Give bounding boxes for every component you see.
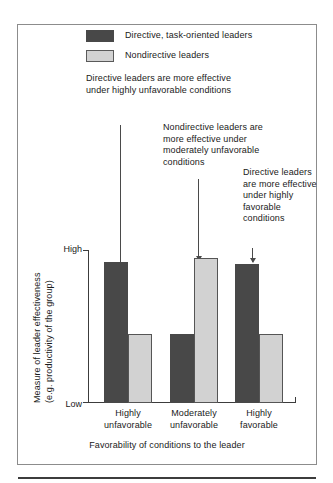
bar-nondirective-moderately-unfavorable xyxy=(194,258,218,403)
dark-swatch-icon xyxy=(86,30,114,42)
plot-area: High Low xyxy=(88,250,296,403)
legend-label-directive: Directive, task-oriented leaders xyxy=(125,30,252,41)
x-axis-title: Favorability of conditions to the leader xyxy=(18,440,316,450)
x-category-line: unfavorable xyxy=(157,420,231,432)
y-tick-low xyxy=(83,402,88,403)
x-category-line: Moderately xyxy=(157,408,231,420)
bar-directive-highly-favorable xyxy=(235,264,259,403)
annotation-arrow-1-icon xyxy=(120,125,121,266)
legend-item-nondirective: Nondirective leaders xyxy=(86,49,316,62)
x-axis-category-labels: Highly unfavorable Moderately unfavorabl… xyxy=(88,408,296,434)
chart-legend: Directive, task-oriented leaders Nondire… xyxy=(86,29,316,69)
x-category-line: Highly xyxy=(222,408,296,420)
legend-label-nondirective: Nondirective leaders xyxy=(125,50,209,61)
bar-nondirective-highly-unfavorable xyxy=(128,334,152,403)
annotation-arrow-2-icon xyxy=(198,179,199,260)
bottom-divider xyxy=(18,477,316,479)
x-category-highly-unfavorable: Highly unfavorable xyxy=(91,408,165,431)
y-axis-title-line-2: (e.g. productivity of the group) xyxy=(44,280,54,403)
bar-group-highly-unfavorable xyxy=(104,250,152,403)
annotation-moderately-unfavorable: Nondirective leaders are more effective … xyxy=(163,122,283,168)
bar-directive-moderately-unfavorable xyxy=(170,334,194,403)
light-swatch-icon xyxy=(86,50,114,62)
legend-item-directive: Directive, task-oriented leaders xyxy=(86,29,316,42)
y-tick-high xyxy=(83,250,88,251)
x-category-line: Highly xyxy=(91,408,165,420)
x-axis-end-tick xyxy=(295,397,296,403)
bar-group-moderately-unfavorable xyxy=(170,250,218,403)
bar-group-highly-favorable xyxy=(235,250,283,403)
annotation-highly-favorable: Directive leaders are more effective und… xyxy=(243,167,317,225)
x-category-line: unfavorable xyxy=(91,420,165,432)
x-category-line: favorable xyxy=(222,420,296,432)
bar-nondirective-highly-favorable xyxy=(259,334,283,403)
x-category-highly-favorable: Highly favorable xyxy=(222,408,296,431)
y-axis-line xyxy=(88,250,89,403)
y-axis-title-line-1: Measure of leader effectiveness xyxy=(32,272,42,403)
bar-directive-highly-unfavorable xyxy=(104,262,128,403)
x-category-moderately-unfavorable: Moderately unfavorable xyxy=(157,408,231,431)
annotation-highly-unfavorable: Directive leaders are more effective und… xyxy=(86,73,236,96)
y-axis-title: Measure of leader effectiveness (e.g. pr… xyxy=(31,250,55,403)
